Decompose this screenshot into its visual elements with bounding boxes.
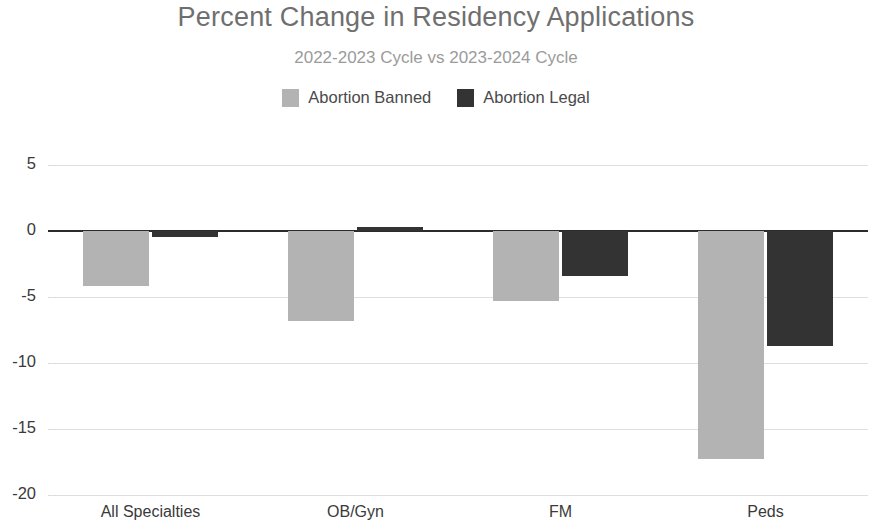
bar <box>83 231 149 286</box>
legend-swatch-abortion-legal <box>457 89 474 107</box>
legend-label-abortion-banned: Abortion Banned <box>308 88 431 107</box>
legend-item-abortion-banned: Abortion Banned <box>282 88 431 107</box>
gridline <box>48 165 868 166</box>
y-tick-label: 5 <box>0 154 36 173</box>
x-tick-label: OB/Gyn <box>253 503 458 521</box>
chart-subtitle: 2022-2023 Cycle vs 2023-2024 Cycle <box>0 48 872 68</box>
bar <box>698 231 764 459</box>
y-tick-label: -20 <box>0 484 36 503</box>
bar <box>288 231 354 321</box>
y-tick-label: 0 <box>0 220 36 239</box>
chart-title: Percent Change in Residency Applications <box>0 2 872 33</box>
bar <box>152 231 218 238</box>
bar <box>767 231 833 346</box>
bar <box>493 231 559 301</box>
legend-item-abortion-legal: Abortion Legal <box>457 88 589 107</box>
y-tick-label: -15 <box>0 418 36 437</box>
x-tick-label: Peds <box>663 503 868 521</box>
bar <box>357 227 423 231</box>
y-tick-label: -5 <box>0 286 36 305</box>
plot-area: 50-5-10-15-20 All SpecialtiesOB/GynFMPed… <box>48 145 868 495</box>
chart-container: Percent Change in Residency Applications… <box>0 0 872 530</box>
bar <box>562 231 628 276</box>
legend-swatch-abortion-banned <box>282 89 299 107</box>
x-tick-label: All Specialties <box>48 503 253 521</box>
legend-label-abortion-legal: Abortion Legal <box>483 88 589 107</box>
gridline <box>48 495 868 496</box>
y-tick-label: -10 <box>0 352 36 371</box>
x-tick-label: FM <box>458 503 663 521</box>
chart-legend: Abortion Banned Abortion Legal <box>0 88 872 107</box>
